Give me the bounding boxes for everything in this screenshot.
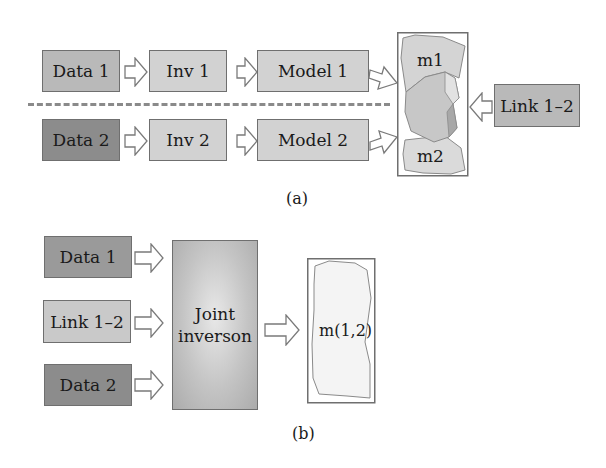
input-data1-label: Data 1 xyxy=(60,247,117,267)
arrow-right-icon xyxy=(134,308,164,338)
model1-label: Model 1 xyxy=(278,61,348,81)
data1-box: Data 1 xyxy=(42,50,120,92)
m1-label: m1 xyxy=(417,50,444,70)
arrow-right-icon xyxy=(236,57,258,87)
link-label: Link 1–2 xyxy=(500,96,574,116)
m2-label: m2 xyxy=(417,146,444,166)
data1-label: Data 1 xyxy=(53,61,110,81)
combined-models-box: m1 m2 xyxy=(397,32,469,178)
input-data1-box: Data 1 xyxy=(44,236,132,278)
arrow-right-icon xyxy=(124,126,148,156)
arrow-right-icon xyxy=(236,126,258,156)
joint-model-box: m(1,2) xyxy=(307,258,377,404)
inv2-label: Inv 2 xyxy=(166,130,210,150)
caption-a: (a) xyxy=(286,189,308,208)
joint-inversion-box: Joint inverson xyxy=(172,240,258,410)
arrow-left-icon xyxy=(469,92,493,122)
joint-model-label: m(1,2) xyxy=(319,321,372,340)
arrow-right-icon xyxy=(264,314,300,346)
arrow-diagonal-down-icon xyxy=(368,62,398,92)
dashed-divider xyxy=(28,103,390,106)
arrow-diagonal-up-icon xyxy=(368,128,398,158)
inv1-label: Inv 1 xyxy=(166,61,210,81)
input-data2-box: Data 2 xyxy=(44,364,132,406)
data2-box: Data 2 xyxy=(42,119,120,161)
data2-label: Data 2 xyxy=(53,130,110,150)
model2-box: Model 2 xyxy=(257,119,369,161)
joint-label-line2: inverson xyxy=(178,325,252,347)
arrow-right-icon xyxy=(124,57,148,87)
link-box: Link 1–2 xyxy=(494,84,580,127)
joint-label-line1: Joint xyxy=(195,303,235,325)
arrow-right-icon xyxy=(134,243,164,273)
input-link-box: Link 1–2 xyxy=(43,300,131,343)
model2-label: Model 2 xyxy=(278,130,348,150)
arrow-right-icon xyxy=(134,370,164,400)
input-data2-label: Data 2 xyxy=(60,375,117,395)
inv2-box: Inv 2 xyxy=(149,119,227,161)
caption-b: (b) xyxy=(292,424,315,443)
input-link-label: Link 1–2 xyxy=(50,312,124,332)
inv1-box: Inv 1 xyxy=(149,50,227,92)
model1-box: Model 1 xyxy=(257,50,369,92)
